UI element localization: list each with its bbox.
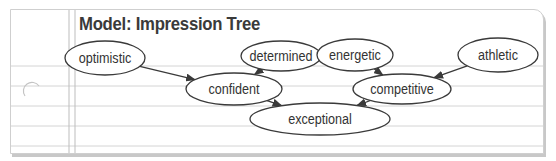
arrow-athletic-to-competitive — [434, 66, 467, 78]
impression-tree-diagram — [0, 0, 556, 161]
arrow-competitive-to-exceptional — [357, 101, 370, 106]
node-label-exceptional: exceptional — [288, 111, 352, 127]
node-label-athletic: athletic — [478, 47, 518, 63]
arrow-confident-to-exceptional — [267, 101, 281, 106]
arrow-determined-to-confident — [255, 69, 263, 74]
node-label-energetic: energetic — [329, 47, 381, 63]
node-label-determined: determined — [249, 48, 312, 64]
node-label-competitive: competitive — [370, 81, 434, 97]
arrow-optimistic-to-confident — [140, 66, 195, 79]
arrow-energetic-to-competitive — [374, 69, 383, 75]
node-label-confident: confident — [208, 81, 259, 97]
node-label-optimistic: optimistic — [79, 50, 132, 66]
